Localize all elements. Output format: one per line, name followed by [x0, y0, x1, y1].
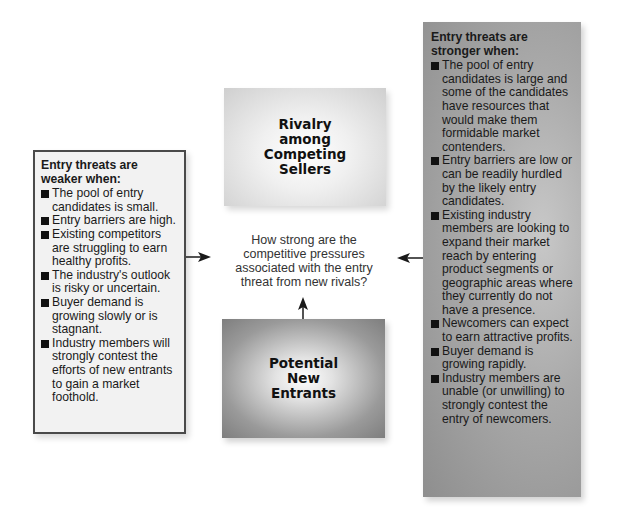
arrow-left-icon — [397, 253, 423, 263]
arrow-up-icon — [298, 297, 308, 319]
connector-arrows — [0, 0, 620, 522]
arrow-right-icon — [186, 252, 211, 262]
